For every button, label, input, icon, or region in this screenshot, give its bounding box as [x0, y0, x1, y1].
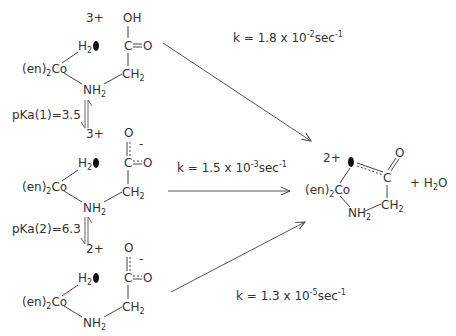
ch2-group: CH2 [381, 198, 404, 214]
metal-center: (en)2Co [305, 183, 350, 199]
reaction-arrow-1 [163, 43, 311, 141]
reaction-arrow-3 [171, 222, 305, 292]
carbonyl-top-oxygen: O [124, 126, 133, 140]
oxygen-dot-icon [93, 273, 99, 283]
carboxyl-charge: - [139, 252, 143, 266]
metal-center: (en)2Co [22, 295, 67, 311]
rate-constant-2: k = 1.5 x 10-3sec-1 [177, 160, 287, 175]
ch2-group: CH2 [122, 67, 145, 83]
oxo-oxygen: O [395, 146, 404, 160]
oxygen-dot-icon [348, 157, 354, 167]
pka2-label: pKa(2)=6.3 [12, 222, 81, 236]
reactant-carboxylate-form: 3+ O - H2 C O (en)2Co CH2 NH2 [22, 126, 152, 217]
metal-center: (en)2Co [22, 180, 67, 196]
oxygen-dot-icon [93, 158, 99, 168]
water-ligand: H2 [78, 271, 92, 287]
carbonyl-oxygen: O [143, 271, 152, 285]
charge-label: 2+ [86, 242, 104, 256]
water-ligand: H2 [78, 39, 92, 55]
rate-constant-3: k = 1.3 x 10-5sec-1 [236, 288, 346, 303]
equilibrium-arrow-1: pKa(1)=3.5 [12, 100, 92, 128]
amine-group: NH2 [83, 201, 106, 217]
amine-group: NH2 [348, 206, 371, 222]
pka1-label: pKa(1)=3.5 [12, 108, 81, 122]
ch2-group: CH2 [122, 185, 145, 201]
carbonyl-oxygen: O [143, 39, 152, 53]
carbon-label: C [383, 171, 391, 185]
water-ligand: H2 [78, 156, 92, 172]
charge-label: 3+ [86, 11, 104, 25]
reaction-scheme: 3+ OH H2 C O (en)2Co CH2 NH2 pKa(1)=3.5 … [0, 0, 456, 336]
water-byproduct: + H2O [410, 176, 447, 192]
charge-label: 2+ [323, 151, 341, 165]
reactant-deprotonated-form: 2+ O - H2 C O (en)2Co CH2 NH2 [22, 241, 152, 332]
equilibrium-arrow-2: pKa(2)=6.3 [12, 217, 92, 244]
carbon-label: C [124, 39, 132, 53]
carboxyl-charge: - [139, 137, 143, 151]
ch2-group: CH2 [122, 300, 145, 316]
reactant-acid-form: 3+ OH H2 C O (en)2Co CH2 NH2 [22, 11, 152, 99]
carbon-label: C [124, 271, 132, 285]
rate-constant-1: k = 1.8 x 10-2sec-1 [233, 30, 343, 45]
product-chelate: 2+ C O (en)2Co CH2 NH2 + H2O [305, 146, 447, 222]
carbonyl-oxygen: O [143, 156, 152, 170]
amine-group: NH2 [83, 316, 106, 332]
carbonyl-top-oxygen: O [124, 241, 133, 255]
hydroxyl-label: OH [123, 11, 141, 25]
metal-center: (en)2Co [22, 62, 67, 78]
charge-label: 3+ [86, 127, 104, 141]
amine-group: NH2 [83, 83, 106, 99]
oxygen-dot-icon [93, 41, 99, 51]
carbon-label: C [124, 156, 132, 170]
